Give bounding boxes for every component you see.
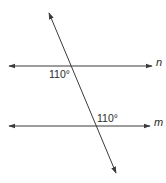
parallel-lines-diagram: n m 110° 110° bbox=[0, 0, 166, 183]
angle-label-m: 110° bbox=[97, 112, 118, 124]
transversal-line bbox=[49, 13, 116, 173]
angle-label-n: 110° bbox=[49, 68, 70, 80]
line-m-label: m bbox=[154, 116, 163, 128]
line-n-label: n bbox=[156, 56, 162, 68]
